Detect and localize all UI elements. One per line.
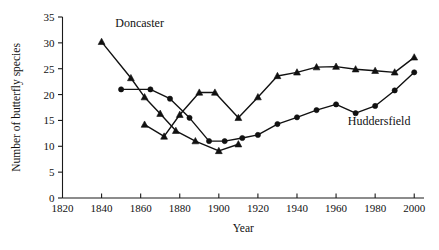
series-label-huddersfield: Huddersfield <box>348 114 411 128</box>
x-axis-ticks: 1820184018601880190019201940196019802000 <box>52 194 426 215</box>
x-tick-label: 1880 <box>169 202 192 214</box>
data-point-triangle <box>98 38 105 44</box>
y-tick-label: 25 <box>44 63 56 75</box>
data-point-circle <box>167 96 172 101</box>
data-point-circle <box>148 87 153 92</box>
data-point-triangle <box>235 141 242 147</box>
series-line-huddersfield <box>121 72 414 141</box>
data-point-circle <box>412 70 417 75</box>
y-tick-label: 20 <box>44 89 56 101</box>
data-point-circle <box>222 139 227 144</box>
data-point-circle <box>294 115 299 120</box>
y-axis-ticks: 05101520253035 <box>44 11 63 204</box>
y-tick-label: 30 <box>44 37 56 49</box>
data-point-circle <box>119 87 124 92</box>
data-point-triangle <box>411 54 418 60</box>
y-tick-label: 10 <box>44 140 56 152</box>
data-point-circle <box>255 132 260 137</box>
y-tick-label: 35 <box>44 11 56 23</box>
x-tick-label: 2000 <box>403 202 426 214</box>
data-point-circle <box>187 115 192 120</box>
data-series-layer <box>98 38 417 153</box>
y-tick-label: 5 <box>49 166 55 178</box>
x-tick-label: 1940 <box>286 202 309 214</box>
chart-plot-area: 05101520253035 1820184018601880190019201… <box>0 0 439 250</box>
data-point-circle <box>314 107 319 112</box>
x-tick-label: 1860 <box>130 202 153 214</box>
x-tick-label: 1820 <box>52 202 75 214</box>
x-tick-label: 1960 <box>325 202 348 214</box>
x-tick-label: 1980 <box>364 202 387 214</box>
x-tick-label: 1840 <box>91 202 114 214</box>
series-label-doncaster: Doncaster <box>115 16 164 30</box>
data-point-circle <box>333 102 338 107</box>
data-point-triangle <box>141 121 148 127</box>
data-point-circle <box>275 121 280 126</box>
butterfly-species-chart: 05101520253035 1820184018601880190019201… <box>0 0 439 250</box>
data-point-triangle <box>192 138 199 144</box>
x-tick-label: 1920 <box>247 202 270 214</box>
data-point-circle <box>392 88 397 93</box>
data-point-circle <box>240 135 245 140</box>
y-axis-title: Number of butterfly species <box>10 43 23 172</box>
y-tick-label: 15 <box>44 114 56 126</box>
x-axis-title: Year <box>233 222 254 234</box>
x-tick-label: 1900 <box>208 202 231 214</box>
data-point-circle <box>206 139 211 144</box>
data-point-circle <box>373 103 378 108</box>
